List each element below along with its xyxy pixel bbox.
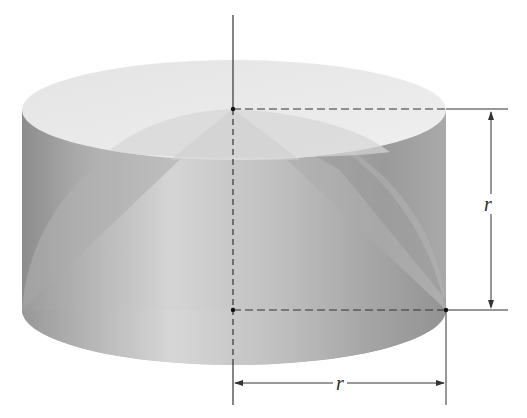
base-edge-point: [444, 308, 448, 312]
base-center-point: [231, 308, 235, 312]
height-label: r: [481, 194, 495, 214]
apex-point: [231, 107, 235, 111]
height-arrow-down-icon: [488, 300, 494, 309]
radius-arrow-right-icon: [436, 380, 445, 386]
cylinder-hemisphere-cone-diagram: [0, 0, 527, 418]
radius-arrow-left-icon: [234, 380, 243, 386]
radius-label: r: [333, 373, 347, 393]
height-arrow-up-icon: [488, 111, 494, 120]
